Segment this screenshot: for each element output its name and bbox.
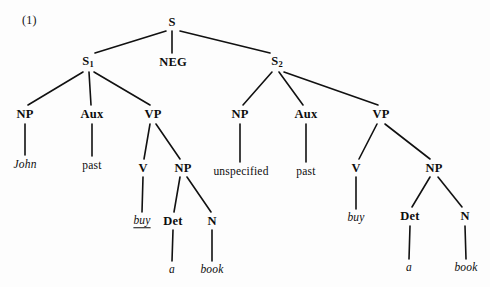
tree-terminal-buy-left: buy (133, 215, 150, 227)
tree-edge-det-right-to-a-right (409, 226, 410, 259)
tree-edge-det-left-to-a-left (172, 230, 173, 261)
tree-node-v-left: V (138, 162, 147, 175)
tree-node-v-right: V (351, 162, 360, 175)
tree-terminal-book-left: book (200, 264, 223, 276)
tree-edge-v-left-to-buy-left (142, 177, 143, 212)
tree-node-np2-left: NP (174, 162, 191, 175)
tree-node-np-right: NP (231, 108, 248, 121)
tree-edge-np2-right-to-n-right (438, 177, 462, 207)
tree-edge-vp-right-to-v-right (359, 124, 377, 159)
tree-node-np2-right: NP (425, 162, 442, 175)
tree-edge-n-right-to-book-right (465, 226, 466, 259)
node-label-subscript: 2 (278, 59, 282, 69)
tree-terminal-past-left: past (82, 160, 101, 172)
tree-edge-np2-right-to-det-right (412, 177, 430, 207)
tree-terminal-a-left: a (169, 264, 175, 276)
tree-node-s1: S1 (82, 55, 93, 68)
tree-node-vp-right: VP (372, 108, 389, 121)
tree-node-vp-left: VP (144, 108, 161, 121)
tree-edge-np2-left-to-n-left (187, 177, 211, 212)
tree-terminal-book-right: book (454, 262, 477, 274)
tree-node-n-right: N (460, 210, 469, 223)
figure-number: (1) (22, 14, 37, 26)
tree-node-aux-right: Aux (295, 108, 318, 121)
tree-node-np-left: NP (16, 108, 33, 121)
tree-edge-s1-to-vp-left (94, 72, 150, 105)
tree-terminal-past-right: past (296, 166, 315, 178)
tree-edge-vp-left-to-np2-left (156, 124, 180, 159)
tree-node-det-right: Det (400, 210, 419, 223)
node-label-subscript: 1 (89, 59, 93, 69)
tree-terminal-a-right: a (406, 262, 412, 274)
tree-edge-vp-right-to-np2-right (385, 124, 430, 159)
tree-edge-s2-to-np-right (243, 72, 272, 105)
tree-node-neg: NEG (159, 56, 187, 69)
tree-node-n-left: N (207, 215, 216, 228)
tree-edge-np2-left-to-det-left (174, 177, 180, 212)
tree-edge-s-root-to-s2 (180, 31, 270, 53)
tree-node-det-left: Det (163, 215, 182, 228)
tree-terminal-buy-right: buy (347, 212, 364, 224)
tree-edge-s1-to-np-left (28, 72, 83, 105)
tree-edge-s1-to-aux-left (89, 72, 91, 105)
tree-edge-s2-to-vp-right (284, 72, 378, 105)
tree-node-aux-left: Aux (81, 108, 104, 121)
tree-edges-layer (0, 0, 490, 287)
tree-node-s-root: S (168, 16, 175, 29)
tree-edge-vp-left-to-v-left (144, 124, 150, 159)
tree-terminal-unspecified: unspecified (213, 166, 268, 178)
tree-edge-s-root-to-s1 (95, 31, 166, 53)
tree-node-s2: S2 (271, 55, 282, 68)
syntax-tree-figure: (1) SS1NEGS2NPAuxVPNPAuxVPJohnpastVNPuns… (0, 0, 490, 287)
tree-terminal-john: John (13, 159, 36, 171)
